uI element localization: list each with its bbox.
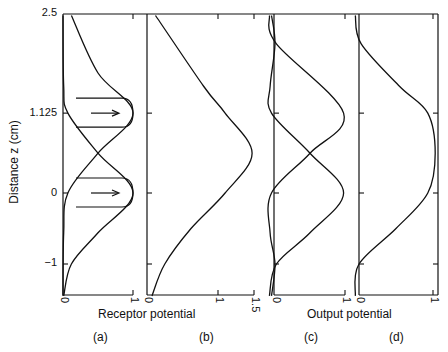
panel-label-d: (d) — [389, 330, 404, 344]
c-xtick-0: 0 — [271, 297, 283, 303]
curve-output-at-1.125 — [268, 16, 344, 296]
curve-receptor-at-0 — [63, 16, 133, 296]
a-xtick-0: 0 — [59, 297, 71, 303]
output-x-label: Output potential — [307, 307, 392, 321]
ytick-1.125: 1.125 — [17, 106, 57, 118]
d-xtick-1: 1 — [429, 297, 441, 303]
c-xtick-1: 1 — [341, 297, 353, 303]
receptor-x-label: Receptor potential — [98, 307, 195, 321]
curve-summed-output — [355, 16, 435, 296]
curve-summed-receptor — [152, 16, 252, 296]
arrow-annotations — [76, 98, 133, 207]
a-xtick-1: 1 — [129, 297, 141, 303]
curve-receptor-at-1.125 — [63, 16, 133, 296]
d-xtick-0: 0 — [355, 297, 367, 303]
panel-label-a: (a) — [93, 330, 108, 344]
curve-output-at-0 — [268, 16, 344, 296]
y-axis-label: Distance z (cm) — [7, 102, 21, 222]
ytick-minus1: −1 — [17, 256, 57, 268]
panel-label-b: (b) — [199, 330, 214, 344]
panel-label-c: (c) — [304, 330, 318, 344]
b-xtick-1.5: 1.5 — [250, 297, 262, 312]
ytick-0: 0 — [17, 186, 57, 198]
b-xtick-0: 0 — [143, 297, 155, 303]
ytick-2.5: 2.5 — [17, 6, 57, 18]
b-xtick-1: 1 — [214, 297, 226, 303]
